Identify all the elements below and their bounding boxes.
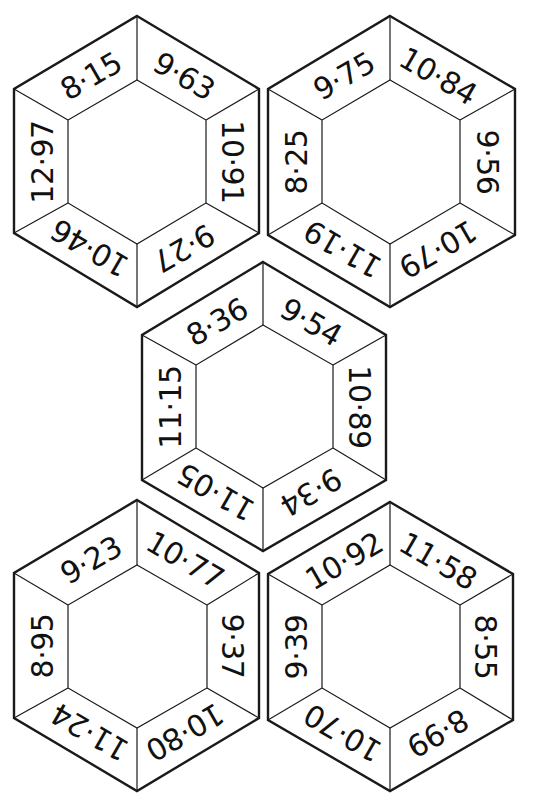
hexagon-top-left: 8·15 9·63 10·91 9·27 10·46 12·97: [14, 16, 259, 307]
puzzle-sheet: 8·15 9·63 10·91 9·27 10·46 12·97 9·75 10…: [0, 0, 536, 805]
segment-right-value: 8·55: [468, 615, 503, 680]
hexagon-center: 8·36 9·54 10·89 9·34 11·05 11·15: [142, 262, 386, 551]
segment-left-value: 11·15: [153, 365, 188, 448]
segment-left-value: 9·39: [279, 615, 314, 680]
hexagon-bottom-left: 9·23 10·77 9·37 10·80 11·24 8·95: [14, 500, 259, 791]
segment-right-value: 10·89: [342, 365, 377, 448]
segment-left-value: 12·97: [25, 120, 60, 203]
segment-right-value: 9·56: [470, 130, 505, 195]
segment-left-value: 8·25: [279, 130, 314, 195]
segment-right-value: 10·91: [215, 120, 250, 203]
hexagon-top-right: 9·75 10·84 9·56 10·79 11·19 8·25: [268, 16, 515, 307]
segment-left-value: 8·95: [25, 614, 60, 679]
hexagon-bottom-right: 10·92 11·58 8·55 8·99 10·70 9·39: [268, 502, 513, 791]
segment-right-value: 9·37: [215, 614, 250, 679]
